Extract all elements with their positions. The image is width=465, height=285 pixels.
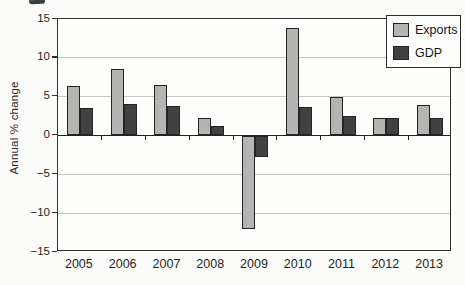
bar-gdp-2013 xyxy=(430,118,443,135)
x-tick-label-2006: 2006 xyxy=(101,257,145,271)
legend-label-exports: Exports xyxy=(415,23,457,37)
bar-gdp-2010 xyxy=(299,107,312,136)
bar-gdp-2011 xyxy=(343,116,356,135)
y-tick-label--10: −10 xyxy=(4,206,50,219)
y-tick-mark--10 xyxy=(52,212,57,213)
y-tick-mark-10 xyxy=(52,56,57,57)
y-tick-label-0: 0 xyxy=(4,128,50,141)
exports-swatch-icon xyxy=(393,23,409,37)
y-tick-label--5: −5 xyxy=(4,167,50,180)
x-tick-label-2007: 2007 xyxy=(144,257,188,271)
bar-exports-2006 xyxy=(111,69,124,135)
category-boundary-tick xyxy=(189,136,190,140)
legend-item-exports: Exports xyxy=(393,23,454,37)
x-tick-label-2011: 2011 xyxy=(320,257,364,271)
x-tick-label-2009: 2009 xyxy=(232,257,276,271)
x-tick-label-2010: 2010 xyxy=(276,257,320,271)
category-boundary-tick xyxy=(408,136,409,140)
y-tick-mark-5 xyxy=(52,95,57,96)
bar-exports-2008 xyxy=(198,118,211,135)
bar-exports-2011 xyxy=(330,97,343,136)
y-tick-mark--15 xyxy=(52,251,57,252)
bar-exports-2005 xyxy=(67,86,80,136)
legend-label-gdp: GDP xyxy=(415,46,442,60)
bar-gdp-2009 xyxy=(255,136,268,158)
y-tick-label-5: 5 xyxy=(4,89,50,102)
legend: Exports GDP xyxy=(386,15,461,68)
bar-exports-2009 xyxy=(242,136,255,229)
bar-gdp-2007 xyxy=(167,106,180,136)
bar-gdp-2008 xyxy=(211,126,224,135)
bar-gdp-2012 xyxy=(386,118,399,135)
x-tick-label-2005: 2005 xyxy=(57,257,101,271)
category-boundary-tick xyxy=(364,136,365,140)
category-boundary-tick xyxy=(233,136,234,140)
bar-exports-2012 xyxy=(373,118,386,136)
cropped-title-fragment xyxy=(29,0,45,4)
bar-gdp-2005 xyxy=(80,108,93,135)
category-boundary-tick xyxy=(276,136,277,140)
legend-item-gdp: GDP xyxy=(393,46,454,60)
x-tick-label-2013: 2013 xyxy=(407,257,451,271)
gdp-swatch-icon xyxy=(393,46,409,60)
category-boundary-tick xyxy=(101,136,102,140)
bar-exports-2013 xyxy=(417,105,430,135)
y-tick-mark-15 xyxy=(52,18,57,19)
x-tick-label-2012: 2012 xyxy=(363,257,407,271)
y-tick-label--15: −15 xyxy=(4,245,50,258)
x-tick-label-2008: 2008 xyxy=(188,257,232,271)
category-boundary-tick xyxy=(145,136,146,140)
bar-exports-2010 xyxy=(286,28,299,135)
y-tick-label-10: 10 xyxy=(4,50,50,63)
category-boundary-tick xyxy=(320,136,321,140)
figure: Annual % change Exports GDP 151050−5−10−… xyxy=(0,0,465,285)
y-tick-label-15: 15 xyxy=(4,12,50,25)
y-tick-mark-0 xyxy=(52,134,57,135)
bar-exports-2007 xyxy=(154,85,167,135)
y-tick-mark--5 xyxy=(52,173,57,174)
bar-gdp-2006 xyxy=(124,104,137,135)
